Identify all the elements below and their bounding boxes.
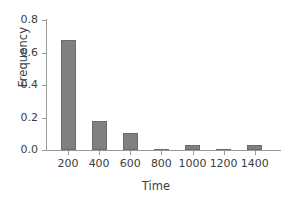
x-axis-tick bbox=[130, 151, 131, 155]
x-axis-tick bbox=[224, 151, 225, 155]
x-axis-tick-label: 1400 bbox=[232, 157, 278, 170]
x-axis-tick bbox=[99, 151, 100, 155]
y-axis-tick-label: 0.0 bbox=[8, 143, 38, 156]
y-axis-tick-label: 0.6 bbox=[8, 46, 38, 59]
y-axis-tick-label: 0.8 bbox=[8, 13, 38, 26]
x-axis-tick bbox=[193, 151, 194, 155]
bar bbox=[154, 149, 169, 150]
x-axis-spine bbox=[46, 150, 281, 151]
y-axis-tick-label: 0.4 bbox=[8, 78, 38, 91]
bar-chart-figure: Frequency Time 0.00.20.40.60.82004006008… bbox=[0, 0, 289, 199]
bar bbox=[123, 133, 138, 150]
bar bbox=[247, 145, 262, 150]
bar bbox=[216, 149, 231, 150]
bar bbox=[185, 145, 200, 150]
y-axis-tick bbox=[42, 150, 46, 151]
y-axis-tick-label: 0.2 bbox=[8, 111, 38, 124]
x-axis-tick bbox=[255, 151, 256, 155]
plot-area bbox=[46, 20, 281, 150]
x-axis-title: Time bbox=[46, 179, 266, 193]
bar bbox=[61, 40, 76, 151]
x-axis-tick bbox=[161, 151, 162, 155]
bar bbox=[92, 121, 107, 150]
x-axis-tick bbox=[68, 151, 69, 155]
